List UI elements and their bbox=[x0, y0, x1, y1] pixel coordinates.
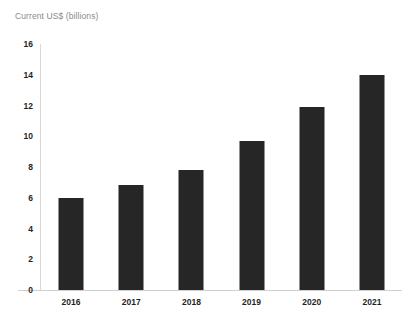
bar-slot bbox=[342, 44, 402, 290]
y-axis-tick-label: 6 bbox=[28, 193, 33, 203]
bar-slot bbox=[161, 44, 221, 290]
y-axis-tick-labels: 0246810121416 bbox=[0, 0, 33, 335]
bar-2018 bbox=[179, 170, 204, 290]
bar-2016 bbox=[59, 198, 84, 290]
bar-slot bbox=[222, 44, 282, 290]
bar-slot bbox=[41, 44, 101, 290]
x-axis-tick-label: 2017 bbox=[122, 297, 141, 307]
x-axis-tick-label: 2019 bbox=[242, 297, 261, 307]
x-axis-line bbox=[18, 290, 402, 291]
bar-chart: Current US$ (billions) 0246810121416 201… bbox=[0, 0, 420, 335]
x-axis-tick-label: 2016 bbox=[62, 297, 81, 307]
y-axis-tick-label: 12 bbox=[24, 101, 33, 111]
y-axis-tick-label: 16 bbox=[24, 39, 33, 49]
x-axis-tick-label: 2021 bbox=[362, 297, 381, 307]
bar-slot bbox=[282, 44, 342, 290]
bars-layer bbox=[41, 44, 402, 290]
x-axis-tick-label: 2020 bbox=[302, 297, 321, 307]
x-axis-tick-labels: 201620172018201920202021 bbox=[41, 297, 402, 317]
y-axis-tick-label: 8 bbox=[28, 162, 33, 172]
y-axis-tick-label: 14 bbox=[24, 70, 33, 80]
y-axis-tick-label: 4 bbox=[28, 224, 33, 234]
y-axis-tick-label: 2 bbox=[28, 254, 33, 264]
y-axis-tick-label: 0 bbox=[28, 285, 33, 295]
bar-slot bbox=[101, 44, 161, 290]
y-axis-tick-label: 10 bbox=[24, 131, 33, 141]
bar-2021 bbox=[359, 75, 384, 290]
bar-2020 bbox=[299, 107, 324, 290]
x-axis-tick-label: 2018 bbox=[182, 297, 201, 307]
bar-2019 bbox=[239, 141, 264, 290]
bar-2017 bbox=[119, 185, 144, 290]
